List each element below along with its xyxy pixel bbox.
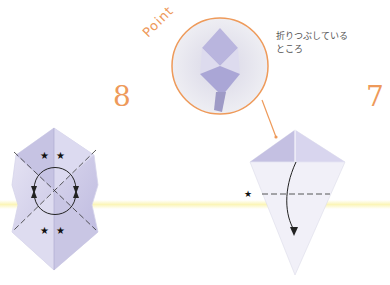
step-number-7: 7 (366, 83, 384, 111)
star-marker: ★ (56, 225, 65, 236)
point-callout (172, 18, 278, 139)
caption-line-1: 折りつぶしている (276, 31, 348, 41)
star-marker: ★ (40, 225, 49, 236)
step-7-figure (250, 130, 345, 275)
callout-caption: 折りつぶしている ところ (276, 30, 348, 56)
star-marker: ★ (244, 189, 252, 199)
star-marker: ★ (56, 150, 65, 161)
step-8-figure (12, 128, 98, 270)
caption-line-2: ところ (276, 44, 303, 54)
step-number-8: 8 (113, 83, 131, 111)
star-marker: ★ (40, 150, 49, 161)
